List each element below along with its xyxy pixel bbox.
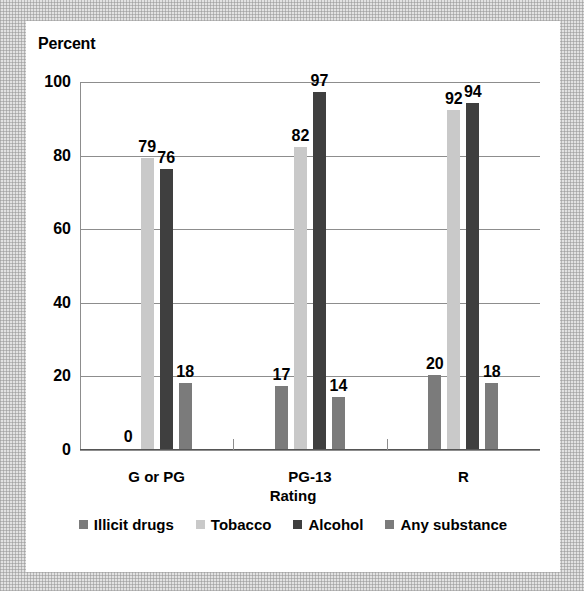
bar-fill bbox=[447, 110, 460, 449]
legend-swatch-icon bbox=[293, 520, 302, 529]
y-axis-tick-label: 80 bbox=[53, 147, 71, 165]
bar-fill bbox=[485, 383, 498, 449]
legend-swatch-icon bbox=[196, 520, 205, 529]
bar-value-label: 82 bbox=[292, 127, 310, 145]
bar-fill bbox=[160, 169, 173, 449]
legend-swatch-icon bbox=[79, 520, 88, 529]
gridline bbox=[80, 450, 540, 451]
bar-value-label: 18 bbox=[176, 363, 194, 381]
x-axis-title: Rating bbox=[26, 487, 560, 504]
legend-item[interactable]: Alcohol bbox=[293, 516, 363, 533]
plot-area: 020406080100 07976181782971420929418 G o… bbox=[80, 82, 540, 450]
bar-fill bbox=[179, 383, 192, 449]
bar-value-label: 18 bbox=[483, 363, 501, 381]
chart-card: Percent 020406080100 0797618178297142092… bbox=[26, 21, 560, 572]
y-axis-tick-label: 100 bbox=[44, 73, 71, 91]
legend-item-label: Illicit drugs bbox=[94, 516, 174, 533]
bar: 79 bbox=[141, 158, 154, 449]
bar-fill bbox=[466, 103, 479, 449]
bar-value-label: 94 bbox=[464, 83, 482, 101]
group-separator-tick bbox=[387, 439, 388, 450]
bar-fill bbox=[141, 158, 154, 449]
legend-item[interactable]: Tobacco bbox=[196, 516, 272, 533]
bar-fill bbox=[313, 92, 326, 449]
bar-value-label: 97 bbox=[311, 72, 329, 90]
bar: 18 bbox=[179, 383, 192, 449]
bar: 18 bbox=[485, 383, 498, 449]
bar-value-label: 79 bbox=[138, 138, 156, 156]
y-axis-tick-label: 0 bbox=[62, 441, 71, 459]
y-axis-tick-label: 20 bbox=[53, 367, 71, 385]
bar-fill bbox=[275, 386, 288, 449]
bar: 17 bbox=[275, 386, 288, 449]
chart-legend: Illicit drugsTobaccoAlcoholAny substance bbox=[26, 516, 560, 533]
bar: 76 bbox=[160, 169, 173, 449]
bar-value-label: 0 bbox=[124, 428, 133, 446]
bar: 0 bbox=[122, 448, 135, 449]
legend-item-label: Alcohol bbox=[308, 516, 363, 533]
group-separator-tick bbox=[233, 439, 234, 450]
bar: 82 bbox=[294, 147, 307, 449]
y-axis-title: Percent bbox=[38, 35, 95, 53]
bar-value-label: 76 bbox=[157, 149, 175, 167]
legend-item-label: Any substance bbox=[400, 516, 507, 533]
bar-value-label: 92 bbox=[445, 90, 463, 108]
y-axis-tick-label: 40 bbox=[53, 294, 71, 312]
x-axis-tick-label: G or PG bbox=[128, 468, 185, 485]
bar: 20 bbox=[428, 375, 441, 449]
x-axis-tick-label: PG-13 bbox=[288, 468, 331, 485]
bar: 14 bbox=[332, 397, 345, 449]
y-axis-tick-label: 60 bbox=[53, 220, 71, 238]
bar-value-label: 17 bbox=[273, 366, 291, 384]
legend-swatch-icon bbox=[385, 520, 394, 529]
page-background: Percent 020406080100 0797618178297142092… bbox=[0, 0, 584, 591]
legend-item[interactable]: Any substance bbox=[385, 516, 507, 533]
y-axis-line bbox=[80, 82, 81, 450]
bar: 97 bbox=[313, 92, 326, 449]
x-axis-tick-label: R bbox=[458, 468, 469, 485]
bar-fill bbox=[428, 375, 441, 449]
bar: 94 bbox=[466, 103, 479, 449]
bar-chart: Percent 020406080100 0797618178297142092… bbox=[26, 21, 560, 572]
legend-item-label: Tobacco bbox=[211, 516, 272, 533]
bar-value-label: 14 bbox=[330, 377, 348, 395]
legend-item[interactable]: Illicit drugs bbox=[79, 516, 174, 533]
bar-fill bbox=[294, 147, 307, 449]
bar: 92 bbox=[447, 110, 460, 449]
bar-value-label: 20 bbox=[426, 355, 444, 373]
bar-fill bbox=[332, 397, 345, 449]
